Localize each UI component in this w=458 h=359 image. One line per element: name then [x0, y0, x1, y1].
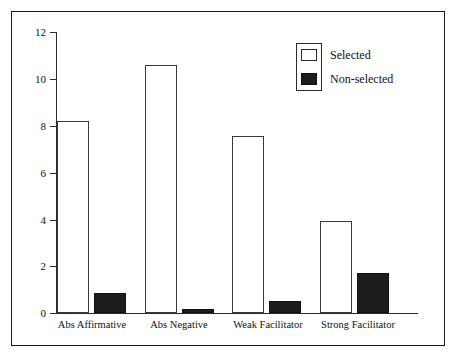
bar-abs-affirmative-non-selected	[94, 293, 126, 313]
bar-weak-facilitator-non-selected	[269, 301, 301, 313]
bar-strong-facilitator-selected	[320, 221, 352, 313]
y-tick-0	[50, 313, 56, 314]
y-tick-label-12: 12	[16, 27, 46, 38]
y-tick-label-4: 4	[16, 215, 46, 226]
legend-swatch-non-selected	[301, 73, 317, 85]
bar-abs-negative-non-selected	[182, 309, 214, 313]
y-tick-label-2: 2	[16, 261, 46, 272]
chart-figure: 12 10 8 6 4 2 0 Abs Affirmative Abs Nega…	[0, 0, 458, 359]
y-tick-12	[50, 32, 56, 33]
y-tick-6	[50, 173, 56, 174]
y-tick-10	[50, 79, 56, 80]
y-tick-label-10: 10	[16, 74, 46, 85]
x-category-label-3: Strong Facilitator	[295, 319, 421, 331]
legend-swatch-selected	[301, 49, 317, 61]
bar-abs-negative-selected	[145, 65, 177, 313]
legend-label-selected: Selected	[330, 49, 371, 61]
bar-weak-facilitator-selected	[232, 136, 264, 313]
x-axis-line	[56, 313, 418, 314]
legend-label-non-selected: Non-selected	[330, 73, 393, 85]
y-tick-2	[50, 266, 56, 267]
y-tick-8	[50, 126, 56, 127]
y-tick-label-0: 0	[16, 308, 46, 319]
y-tick-4	[50, 220, 56, 221]
bar-strong-facilitator-non-selected	[357, 273, 389, 313]
bar-abs-affirmative-selected	[57, 121, 89, 313]
plot-area: 12 10 8 6 4 2 0 Abs Affirmative Abs Nega…	[0, 0, 458, 359]
y-tick-label-8: 8	[16, 121, 46, 132]
y-tick-label-6: 6	[16, 168, 46, 179]
